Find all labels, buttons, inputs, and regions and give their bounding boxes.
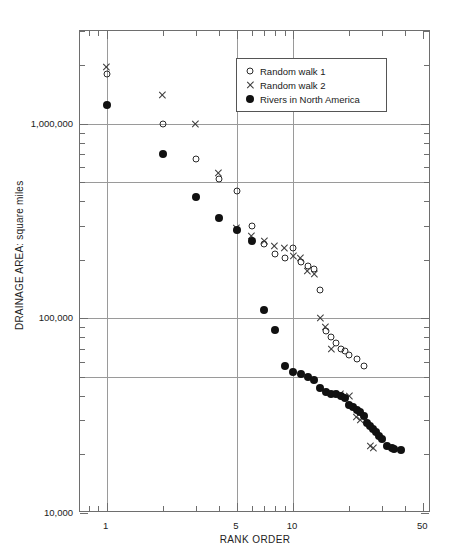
axis-tick	[80, 377, 85, 378]
data-point-cross	[310, 269, 319, 278]
y-tick-label: 1,000,000	[18, 117, 73, 128]
axis-tick	[80, 124, 88, 125]
axis-tick	[293, 31, 294, 39]
filled-circle-icon	[242, 93, 258, 105]
axis-tick	[349, 506, 350, 511]
x-axis-title: RANK ORDER	[220, 534, 291, 545]
axis-tick	[89, 31, 90, 36]
data-point-filled	[233, 226, 241, 234]
data-point-open	[346, 351, 353, 358]
data-point-cross	[316, 314, 325, 323]
data-point-filled	[248, 237, 256, 245]
data-point-filled	[103, 101, 111, 109]
gridline-horizontal	[80, 318, 429, 319]
data-point-cross	[296, 253, 305, 262]
axis-tick	[285, 506, 286, 511]
axis-tick	[424, 420, 429, 421]
axis-tick	[421, 513, 429, 514]
axis-tick	[382, 31, 383, 36]
x-tick-label: 1	[103, 520, 108, 531]
axis-tick	[219, 506, 220, 511]
axis-tick	[424, 31, 429, 32]
gridline-horizontal	[80, 124, 429, 125]
axis-tick	[80, 65, 85, 66]
data-point-filled	[397, 446, 405, 454]
axis-tick	[424, 143, 429, 144]
y-tick-label: 100,000	[18, 312, 73, 323]
axis-tick	[421, 318, 429, 319]
axis-tick	[252, 506, 253, 511]
data-point-open	[317, 287, 324, 294]
data-point-open	[271, 250, 278, 257]
axis-tick	[80, 154, 85, 155]
axis-tick	[285, 31, 286, 36]
legend: Random walk 1 Random walk 2 Rivers in No…	[236, 58, 387, 112]
legend-item: Rivers in North America	[242, 92, 380, 106]
axis-tick	[107, 503, 108, 511]
axis-tick	[423, 31, 424, 39]
axis-tick	[424, 154, 429, 155]
axis-tick	[196, 506, 197, 511]
axis-tick	[80, 182, 85, 183]
axis-tick	[275, 31, 276, 36]
axis-tick	[219, 31, 220, 36]
axis-tick	[80, 396, 85, 397]
data-point-open	[233, 188, 240, 195]
x-tick-label: 10	[287, 520, 298, 531]
axis-tick	[264, 506, 265, 511]
legend-item-label: Random walk 1	[258, 66, 325, 77]
data-point-filled	[215, 214, 223, 222]
axis-tick	[89, 506, 90, 511]
data-point-cross	[191, 119, 200, 128]
axis-tick	[293, 503, 294, 511]
x-tick-label: 5	[233, 520, 238, 531]
open-circle-icon	[242, 65, 258, 77]
legend-item-label: Rivers in North America	[258, 94, 360, 105]
data-point-open	[281, 254, 288, 261]
axis-tick	[424, 226, 429, 227]
gridline-horizontal	[80, 377, 429, 378]
axis-tick	[107, 31, 108, 39]
axis-tick	[405, 31, 406, 36]
data-point-open	[248, 222, 255, 229]
axis-tick	[405, 506, 406, 511]
axis-tick	[264, 31, 265, 36]
y-axis-title: DRAINAGE AREA: square miles	[14, 181, 25, 330]
x-tick-label: 50	[417, 520, 428, 531]
data-point-cross	[214, 168, 223, 177]
legend-item: Random walk 2	[242, 78, 380, 92]
axis-tick	[80, 201, 85, 202]
data-point-filled	[310, 376, 318, 384]
axis-tick	[424, 182, 429, 183]
axis-tick	[98, 506, 99, 511]
axis-tick	[424, 133, 429, 134]
legend-item: Random walk 1	[242, 64, 380, 78]
axis-tick	[424, 201, 429, 202]
data-point-cross	[369, 444, 378, 453]
axis-tick	[80, 513, 88, 514]
data-point-filled	[281, 362, 289, 370]
axis-tick	[424, 327, 429, 328]
axis-tick	[163, 506, 164, 511]
axis-tick	[237, 503, 238, 511]
axis-tick	[163, 31, 164, 36]
data-point-cross	[327, 344, 336, 353]
data-point-filled	[192, 193, 200, 201]
axis-tick	[382, 506, 383, 511]
axis-tick	[80, 226, 85, 227]
cross-icon	[242, 79, 258, 91]
data-point-cross	[321, 323, 330, 332]
axis-tick	[423, 503, 424, 511]
axis-tick	[349, 31, 350, 36]
axis-tick	[424, 454, 429, 455]
data-point-open	[159, 120, 166, 127]
data-point-cross	[270, 242, 279, 251]
axis-tick	[424, 260, 429, 261]
data-point-open	[360, 362, 367, 369]
data-point-cross	[102, 63, 111, 72]
axis-tick	[424, 337, 429, 338]
axis-tick	[80, 31, 85, 32]
axis-tick	[424, 396, 429, 397]
axis-tick	[275, 506, 276, 511]
axis-tick	[80, 133, 85, 134]
